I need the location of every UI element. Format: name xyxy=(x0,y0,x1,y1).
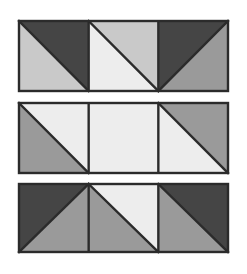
band-middle xyxy=(19,103,228,173)
cell-top-3 xyxy=(158,21,228,91)
cell-bottom-1 xyxy=(19,184,89,252)
cell-middle-1 xyxy=(19,103,89,173)
band-bottom xyxy=(19,184,228,252)
cell-top-1 xyxy=(19,21,89,91)
cell-top-2 xyxy=(89,21,159,91)
band-top xyxy=(19,21,228,91)
cell-middle-3 xyxy=(158,103,228,173)
cell-bottom-2 xyxy=(89,184,159,252)
cell-middle-2 xyxy=(89,103,159,173)
cell-bottom-3 xyxy=(158,184,228,252)
pattern-figure xyxy=(0,0,247,274)
cell-middle-2-square xyxy=(89,103,159,173)
pattern-canvas xyxy=(0,0,247,274)
bands-group xyxy=(19,21,228,252)
